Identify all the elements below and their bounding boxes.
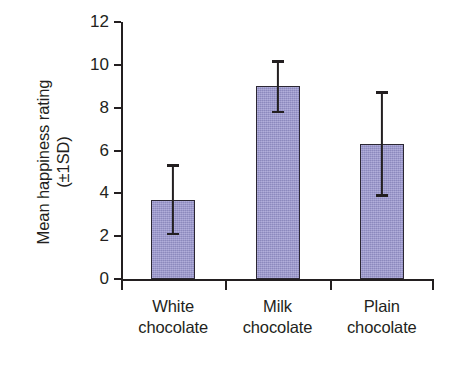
error-bar-cap-upper [167, 164, 179, 167]
x-axis-label-line-2: chocolate [330, 317, 434, 338]
y-tick-label-6: 6 [100, 141, 109, 158]
x-tick-2 [330, 281, 332, 290]
y-tick-label-4: 4 [100, 184, 109, 201]
y-tick-4: 4 [114, 192, 121, 194]
error-bar-cap-lower [376, 194, 388, 197]
error-bar-line [381, 93, 383, 196]
y-tick-label-10: 10 [90, 55, 109, 72]
x-axis-label-white-chocolate: Whitechocolate [121, 296, 225, 356]
y-tick-12: 12 [114, 21, 121, 23]
y-tick-10: 10 [114, 64, 121, 66]
x-axis-label-plain-chocolate: Plainchocolate [330, 296, 434, 356]
error-bar-plain-chocolate [372, 93, 392, 279]
y-axis-title-line-1: Mean happiness rating [33, 80, 53, 245]
y-tick-6: 6 [114, 150, 121, 152]
error-bar-white-chocolate [163, 166, 183, 280]
y-axis-line [121, 22, 123, 281]
x-axis-label-milk-chocolate: Milkchocolate [225, 296, 329, 356]
x-tick-3 [432, 281, 434, 290]
x-axis-line [121, 279, 434, 281]
y-tick-8: 8 [114, 107, 121, 109]
x-tick-1 [225, 281, 227, 290]
error-bar-cap-lower [272, 111, 284, 114]
error-bar-cap-upper [272, 60, 284, 63]
x-axis-label-line-1: Milk [225, 296, 329, 317]
y-tick-0: 0 [114, 278, 121, 280]
bar-chart-figure: Mean happiness rating (±1SD) 024681012 W… [0, 0, 462, 365]
x-tick-0 [121, 281, 123, 290]
x-axis-label-line-2: chocolate [225, 317, 329, 338]
y-tick-label-12: 12 [90, 13, 109, 30]
error-bar-cap-lower [167, 233, 179, 236]
y-axis-title: Mean happiness rating (±1SD) [28, 47, 78, 277]
x-axis-labels: WhitechocolateMilkchocolatePlainchocolat… [121, 296, 434, 356]
error-bar-cap-upper [376, 91, 388, 94]
y-tick-label-8: 8 [100, 98, 109, 115]
x-axis-label-line-1: White [121, 296, 225, 317]
error-bar-milk-chocolate [268, 62, 288, 279]
x-axis-label-line-1: Plain [330, 296, 434, 317]
error-bar-line [172, 166, 174, 235]
y-tick-label-0: 0 [100, 270, 109, 287]
y-axis-title-line-2: (±1SD) [53, 136, 73, 188]
x-axis-label-line-2: chocolate [121, 317, 225, 338]
y-tick-label-2: 2 [100, 227, 109, 244]
y-tick-2: 2 [114, 235, 121, 237]
plot-area: 024681012 [121, 22, 434, 281]
error-bar-line [276, 62, 278, 112]
